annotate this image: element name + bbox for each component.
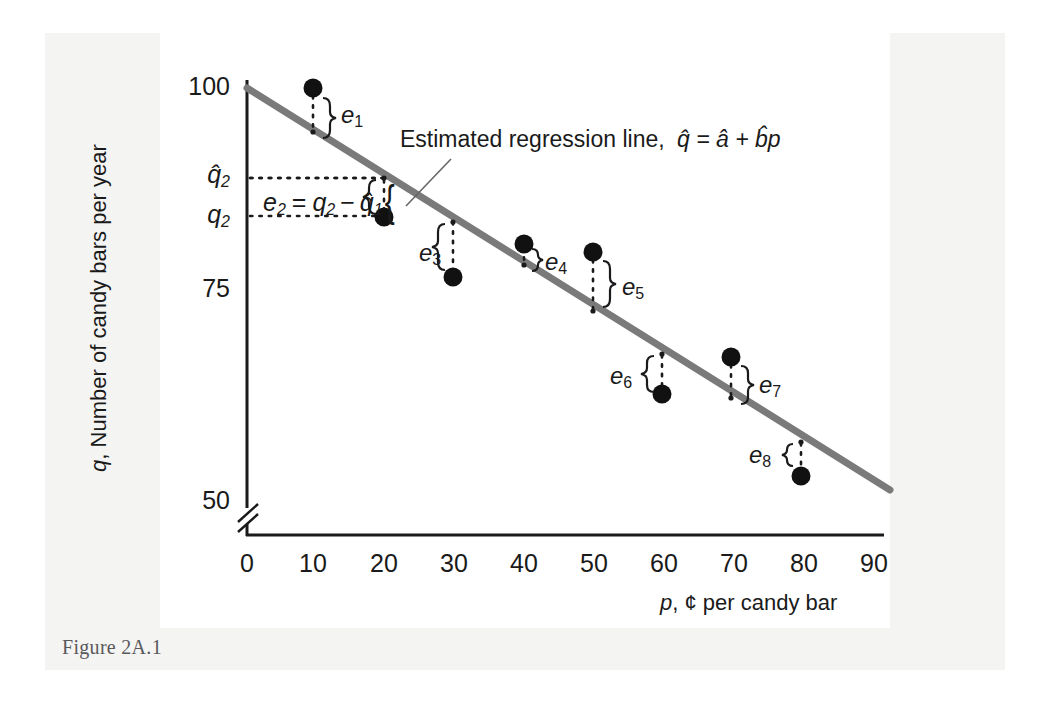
x-tick-label-30: 30: [439, 551, 469, 576]
y-tick-label-100: 100: [172, 74, 230, 99]
residual-label-e6: e6: [610, 364, 632, 391]
e2-eq-term2-base: q̂: [360, 188, 374, 216]
residual-label-e3-sub: 3: [432, 251, 441, 268]
regression-annotation-equation: q̂ = â + b̂p: [677, 126, 781, 152]
residual-e2-equation: e2=q2−q̂1{: [263, 186, 395, 218]
line-foot-e3: [450, 219, 455, 224]
x-tick-label-90: 90: [859, 551, 889, 576]
y-tick-label-q-2: q2: [172, 202, 230, 230]
residual-label-e4-sub: 4: [558, 260, 567, 277]
residual-label-e7-base: e: [759, 371, 772, 398]
e2-eq-term1-base: q: [312, 188, 326, 216]
brace-e5: [603, 261, 616, 307]
figure-page: 100 q̂2 q2 75 50 q, Number of candy bars…: [0, 0, 1051, 709]
residual-label-e8-base: e: [749, 441, 762, 468]
line-foot-e5: [590, 308, 595, 313]
x-tick-label-80: 80: [789, 551, 819, 576]
residual-label-e4-base: e: [545, 248, 558, 275]
y-tick-label-q-hat-2: q̂2: [172, 162, 230, 190]
x-axis-title: p, ¢ per candy bar: [660, 592, 837, 614]
residual-label-e5-sub: 5: [635, 285, 644, 302]
e2-eq-minus: −: [340, 188, 355, 216]
y-tick-q-2-base: q: [207, 200, 221, 228]
line-foot-e7: [728, 395, 733, 400]
x-tick-label-40: 40: [509, 551, 539, 576]
y-tick-q-2-sub: 2: [221, 213, 230, 230]
data-point-7[interactable]: [722, 348, 741, 367]
y-tick-q-hat-2-base: q̂: [207, 160, 221, 188]
line-foot-e4: [521, 262, 526, 267]
y-axis-title: q, Number of candy bars per year: [86, 143, 112, 473]
residual-label-e6-sub: 6: [623, 374, 632, 391]
y-tick-q-hat-2-sub: 2: [221, 173, 230, 190]
residual-label-e7: e7: [759, 373, 781, 400]
x-tick-label-60: 60: [649, 551, 679, 576]
brace-e8: [782, 444, 793, 466]
y-axis-title-variable: q: [86, 460, 111, 472]
e2-eq-term1-sub: 2: [326, 201, 335, 218]
data-point-5[interactable]: [584, 243, 603, 262]
brace-e1: [323, 98, 336, 138]
residual-label-e3-base: e: [419, 239, 432, 266]
residual-label-e6-base: e: [610, 362, 623, 389]
line-foot-e6: [659, 351, 664, 356]
data-point-3[interactable]: [444, 268, 463, 287]
regression-annotation-text: Estimated regression line,: [400, 126, 665, 152]
data-point-4[interactable]: [515, 235, 534, 254]
y-axis-title-text: , Number of candy bars per year: [86, 144, 111, 459]
e2-eq-lhs-base: e: [263, 188, 277, 216]
residual-label-e8: e8: [749, 443, 771, 470]
data-point-8[interactable]: [792, 467, 811, 486]
scatter-chart: 100 q̂2 q2 75 50 q, Number of candy bars…: [0, 0, 1051, 709]
y-tick-label-50: 50: [172, 488, 230, 513]
residual-label-e4: e4: [545, 250, 567, 277]
residual-label-e5: e5: [622, 275, 644, 302]
x-tick-label-70: 70: [719, 551, 749, 576]
residual-label-e1: e1: [341, 103, 363, 130]
line-foot-e1: [310, 129, 315, 134]
x-tick-label-10: 10: [298, 551, 328, 576]
line-foot-e8: [798, 439, 803, 444]
e2-eq-equals: =: [292, 188, 307, 216]
residual-label-e1-sub: 1: [354, 113, 363, 130]
x-axis-title-variable: p: [660, 590, 672, 615]
residual-label-e1-base: e: [341, 101, 354, 128]
residual-label-e7-sub: 7: [772, 383, 781, 400]
x-tick-label-0: 0: [232, 551, 262, 576]
y-tick-label-75: 75: [172, 276, 230, 301]
chart-canvas: [0, 0, 1051, 709]
x-axis-title-text: , ¢ per candy bar: [672, 590, 837, 615]
brace-e6: [641, 356, 654, 392]
residual-label-e5-base: e: [622, 273, 635, 300]
x-tick-label-20: 20: [369, 551, 399, 576]
residual-label-e3: e3: [419, 241, 441, 268]
figure-caption: Figure 2A.1: [62, 636, 162, 659]
regression-line-annotation: Estimated regression line, q̂ = â + b̂p: [400, 128, 781, 151]
x-tick-label-50: 50: [579, 551, 609, 576]
data-point-6[interactable]: [653, 385, 672, 404]
e2-equation-brace: {: [385, 179, 395, 224]
e2-eq-term2-sub: 1: [374, 201, 383, 218]
data-point-1[interactable]: [304, 79, 323, 98]
residual-label-e8-sub: 8: [762, 453, 771, 470]
e2-eq-lhs-sub: 2: [277, 201, 286, 218]
